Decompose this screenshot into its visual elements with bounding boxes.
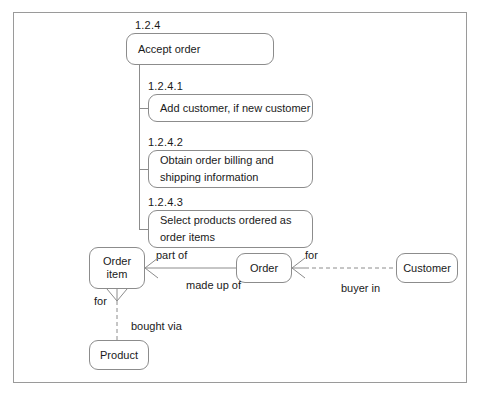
entity-label-order: Order: [250, 262, 278, 275]
diagram-frame: [13, 12, 467, 383]
rel-label-for-order-customer: for: [305, 249, 318, 261]
rel-label-for-order-item-product: for: [94, 295, 107, 307]
task-box-select-products[interactable]: Select products ordered as order items: [148, 210, 313, 248]
rel-label-part-of: part of: [156, 249, 187, 261]
diagram-canvas: 1.2.4 Accept order 1.2.4.1 Add customer,…: [0, 0, 480, 394]
tree-connector-stub-3: [139, 229, 148, 230]
task-id-child-2: 1.2.4.2: [148, 136, 183, 148]
rel-label-bought-via: bought via: [131, 320, 182, 332]
task-label-child-3: Select products ordered as order items: [160, 212, 291, 246]
entity-order-item[interactable]: Order item: [89, 247, 145, 289]
tree-connector-spine: [139, 65, 140, 230]
task-box-add-customer[interactable]: Add customer, if new customer: [148, 94, 313, 122]
task-label-child-1: Add customer, if new customer: [160, 100, 310, 117]
task-label-parent: Accept order: [138, 41, 200, 58]
entity-product[interactable]: Product: [89, 340, 149, 370]
entity-label-customer: Customer: [403, 262, 451, 275]
task-id-parent: 1.2.4: [135, 19, 160, 31]
entity-label-order-item: Order item: [103, 255, 131, 281]
task-id-child-3: 1.2.4.3: [148, 196, 183, 208]
task-label-child-2: Obtain order billing and shipping inform…: [160, 152, 274, 186]
entity-order[interactable]: Order: [236, 253, 292, 283]
entity-label-product: Product: [100, 349, 138, 362]
task-id-child-1: 1.2.4.1: [148, 80, 183, 92]
entity-customer[interactable]: Customer: [396, 253, 458, 283]
tree-connector-stub-2: [139, 169, 148, 170]
rel-label-buyer-in: buyer in: [341, 282, 380, 294]
tree-connector-stub-1: [139, 108, 148, 109]
rel-label-made-up-of: made up of: [186, 279, 241, 291]
task-box-obtain-billing[interactable]: Obtain order billing and shipping inform…: [148, 150, 313, 188]
task-box-accept-order[interactable]: Accept order: [126, 33, 274, 65]
